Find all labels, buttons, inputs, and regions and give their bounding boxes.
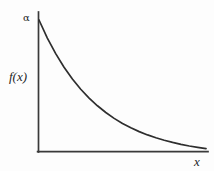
exponential-density-figure: α f(x) x	[0, 0, 214, 171]
x-axis-label: x	[194, 155, 200, 168]
y-axis-label: f(x)	[9, 70, 27, 83]
alpha-intercept-label: α	[23, 13, 30, 23]
plot-canvas	[0, 0, 214, 171]
axes-group	[38, 12, 208, 152]
data-curve-group	[39, 20, 206, 149]
exponential-decay-curve	[39, 20, 206, 149]
